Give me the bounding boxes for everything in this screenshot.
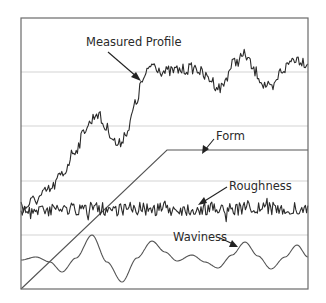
form-label: Form (216, 129, 245, 143)
measured-profile-label: Measured Profile (86, 35, 182, 49)
surface-profile-diagram: Measured Profile Form Roughness Waviness (0, 0, 326, 303)
waviness-label: Waviness (173, 230, 227, 244)
roughness-label: Roughness (229, 179, 292, 193)
